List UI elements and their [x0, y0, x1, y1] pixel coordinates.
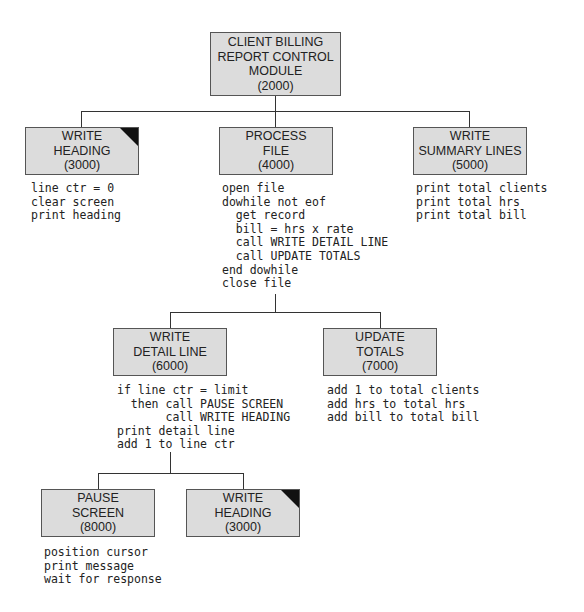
module-number: (5000): [452, 158, 488, 173]
module-label: REPORT CONTROL: [217, 50, 333, 65]
module-number: (7000): [362, 359, 398, 374]
module-label: WRITE: [223, 491, 263, 506]
module-label: FILE: [263, 144, 289, 159]
module-label: WRITE: [450, 129, 490, 144]
module-label: SUMMARY LINES: [418, 144, 521, 159]
code-line: print detail line: [117, 424, 235, 438]
code-line: print heading: [31, 208, 121, 222]
module-number: (8000): [80, 520, 116, 535]
module-update-totals: UPDATE TOTALS (7000): [323, 328, 437, 376]
pseudocode-write-summary-lines: print total clients print total hrs prin…: [416, 182, 548, 223]
connector-to-pause-screen: [98, 473, 99, 489]
module-label: DETAIL LINE: [133, 345, 207, 360]
module-label: SCREEN: [72, 506, 124, 521]
module-write-detail-line: WRITE DETAIL LINE (6000): [113, 328, 227, 376]
connector-level3-bar: [98, 473, 244, 474]
module-label: HEADING: [54, 144, 111, 159]
module-label: PAUSE: [77, 491, 118, 506]
module-label: UPDATE: [355, 330, 405, 345]
code-line: add 1 to total clients: [327, 383, 479, 397]
connector-to-write-heading: [81, 111, 82, 127]
code-line: get record: [222, 208, 305, 222]
pseudocode-write-detail-line: if line ctr = limit then call PAUSE SCRE…: [117, 384, 290, 452]
pseudocode-pause-screen: position cursor print message wait for r…: [44, 546, 162, 587]
module-number: (2000): [257, 79, 293, 94]
code-line: call UPDATE TOTALS: [222, 249, 360, 263]
code-line: add hrs to total hrs: [327, 397, 465, 411]
code-line: print total hrs: [416, 195, 520, 209]
code-line: wait for response: [44, 572, 162, 586]
code-line: open file: [222, 181, 284, 195]
code-line: close file: [222, 276, 291, 290]
module-number: (3000): [64, 158, 100, 173]
code-line: print total bill: [416, 208, 527, 222]
module-control: CLIENT BILLING REPORT CONTROL MODULE (20…: [210, 32, 341, 96]
code-line: if line ctr = limit: [117, 383, 249, 397]
module-write-heading-repeat: WRITE HEADING (3000): [186, 489, 300, 537]
module-label: PROCESS: [245, 129, 306, 144]
module-number: (6000): [152, 359, 188, 374]
module-write-summary-lines: WRITE SUMMARY LINES (5000): [413, 127, 527, 175]
pseudocode-write-heading: line ctr = 0 clear screen print heading: [31, 182, 121, 223]
connector-to-write-detail-line: [170, 312, 171, 328]
connector-process-file-down: [275, 294, 276, 313]
module-label: HEADING: [215, 506, 272, 521]
connector-write-detail-down: [170, 452, 171, 474]
module-label: CLIENT BILLING: [228, 35, 324, 50]
structure-chart: CLIENT BILLING REPORT CONTROL MODULE (20…: [0, 0, 584, 612]
code-line: add 1 to line ctr: [117, 437, 235, 451]
code-line: then call PAUSE SCREEN: [117, 397, 283, 411]
connector-to-process-file: [275, 111, 276, 127]
connector-level2-bar: [170, 312, 381, 313]
code-line: call WRITE HEADING: [117, 410, 290, 424]
module-process-file: PROCESS FILE (4000): [219, 127, 333, 175]
module-label: MODULE: [249, 64, 302, 79]
connector-control-down: [275, 95, 276, 112]
code-line: line ctr = 0: [31, 181, 114, 195]
code-line: position cursor: [44, 545, 148, 559]
pseudocode-update-totals: add 1 to total clients add hrs to total …: [327, 384, 479, 425]
repeated-module-marker-icon: [120, 128, 138, 146]
code-line: end dowhile: [222, 263, 298, 277]
code-line: bill = hrs x rate: [222, 222, 354, 236]
connector-to-write-heading-repeat: [243, 473, 244, 489]
code-line: clear screen: [31, 195, 114, 209]
module-label: TOTALS: [356, 345, 403, 360]
pseudocode-process-file: open file dowhile not eof get record bil…: [222, 182, 388, 291]
code-line: call WRITE DETAIL LINE: [222, 235, 388, 249]
module-label: WRITE: [62, 129, 102, 144]
repeated-module-marker-icon: [281, 490, 299, 508]
module-number: (3000): [225, 520, 261, 535]
connector-to-update-totals: [380, 312, 381, 328]
module-label: WRITE: [150, 330, 190, 345]
code-line: add bill to total bill: [327, 410, 479, 424]
module-number: (4000): [258, 158, 294, 173]
code-line: dowhile not eof: [222, 195, 326, 209]
module-pause-screen: PAUSE SCREEN (8000): [41, 489, 155, 537]
code-line: print message: [44, 559, 134, 573]
module-write-heading: WRITE HEADING (3000): [25, 127, 139, 175]
connector-to-write-summary: [469, 111, 470, 127]
code-line: print total clients: [416, 181, 548, 195]
